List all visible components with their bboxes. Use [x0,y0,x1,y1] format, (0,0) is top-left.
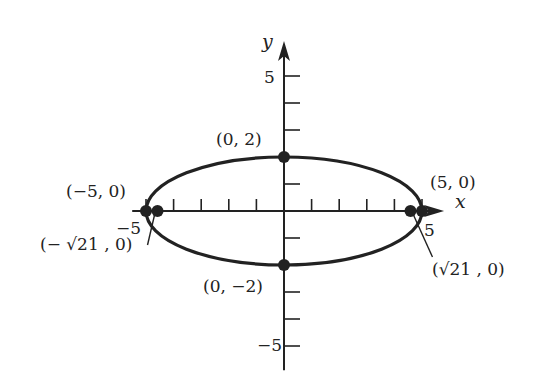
label-covertex-bottom: (0, −2) [203,276,263,296]
x-tick-label-5: 5 [424,220,435,240]
label-covertex-top: (0, 2) [216,129,262,149]
ellipse-diagram: y x 5 −5 −5 5 (0, 2) (0, −2) (−5, 0) (5,… [0,0,545,392]
label-vertex-left: (−5, 0) [66,181,126,201]
point-focus-right [404,205,416,217]
label-focus-left: (− √21 , 0) [40,234,132,254]
y-tick-label-5: 5 [264,67,275,87]
label-focus-right: (√21 , 0) [432,259,505,279]
point-vertex-left [140,205,152,217]
point-covertex-bottom [278,259,290,271]
point-vertex-right [416,205,428,217]
y-axis-label: y [261,30,273,52]
y-tick-label-neg5: −5 [257,335,282,355]
x-axis-label: x [455,190,466,212]
point-focus-left [152,205,164,217]
label-vertex-right: (5, 0) [430,172,476,192]
axes [132,41,444,370]
point-covertex-top [278,151,290,163]
